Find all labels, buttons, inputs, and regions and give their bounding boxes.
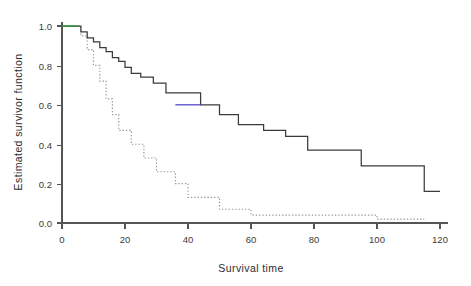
y-tick-label-0.0: 0.0 — [39, 218, 52, 229]
y-axis-title: Estimated survivor function — [12, 54, 24, 191]
y-tick-label-0.2: 0.2 — [39, 179, 52, 190]
y-tick-label-0.8: 0.8 — [39, 61, 52, 72]
x-tick-label-40: 40 — [183, 234, 194, 245]
x-tick-label-20: 20 — [120, 234, 131, 245]
x-axis-title: Survival time — [218, 262, 283, 274]
x-tick-label-0: 0 — [59, 234, 64, 245]
y-tick-label-0.6: 0.6 — [39, 100, 52, 111]
y-tick-label-0.4: 0.4 — [39, 140, 52, 151]
x-tick-label-120: 120 — [432, 234, 448, 245]
survival-chart-svg: 1.0 0.8 0.6 0.4 0.2 0.0 0 20 40 60 80 10… — [0, 0, 471, 286]
x-tick-label-60: 60 — [246, 234, 257, 245]
survival-plot-figure: 1.0 0.8 0.6 0.4 0.2 0.0 0 20 40 60 80 10… — [0, 0, 471, 286]
x-tick-label-80: 80 — [309, 234, 320, 245]
y-tick-label-1.0: 1.0 — [39, 21, 52, 32]
chart-background — [0, 0, 471, 286]
x-tick-label-100: 100 — [369, 234, 385, 245]
